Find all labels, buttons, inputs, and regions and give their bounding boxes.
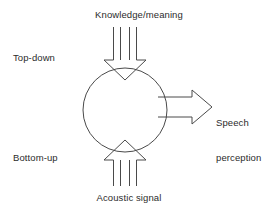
label-speech-perception-line1: Speech xyxy=(216,117,276,129)
top-down-arrow-inner-shafts xyxy=(121,27,130,60)
label-acoustic-signal: Acoustic signal xyxy=(74,192,184,204)
bottom-up-arrow xyxy=(104,140,146,186)
label-top-down: Top-down xyxy=(13,52,55,64)
diagram-canvas: Knowledge/meaning Top-down Bottom-up Aco… xyxy=(0,0,278,214)
top-down-arrow xyxy=(104,27,146,80)
label-knowledge-meaning: Knowledge/meaning xyxy=(77,9,201,21)
label-speech-perception: Speech perception xyxy=(216,94,276,186)
bottom-up-arrow-inner-shafts xyxy=(121,160,130,186)
label-speech-perception-line2: perception xyxy=(216,152,276,164)
label-bottom-up: Bottom-up xyxy=(13,152,58,164)
